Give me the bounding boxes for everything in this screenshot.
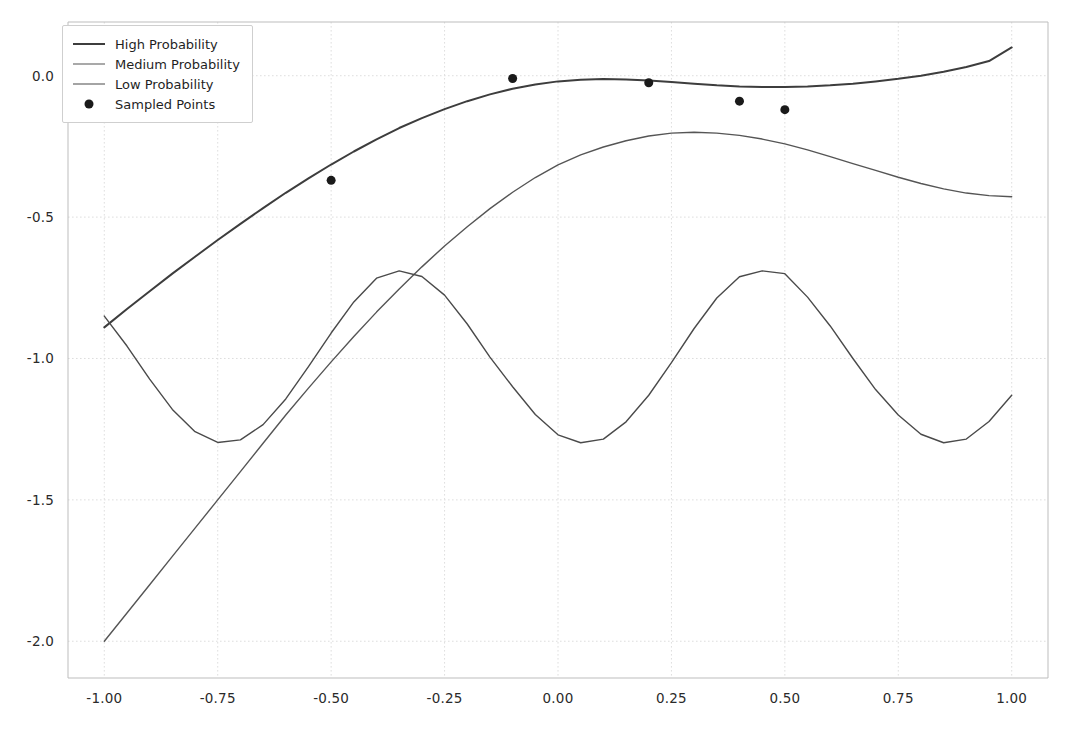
legend-item[interactable]: Low Probability xyxy=(73,74,240,94)
legend-item[interactable]: Medium Probability xyxy=(73,54,240,74)
scatter-point xyxy=(508,74,517,83)
legend-item[interactable]: High Probability xyxy=(73,34,240,54)
legend-item-label: Medium Probability xyxy=(115,57,240,72)
scatter-point xyxy=(735,97,744,106)
x-tick-label: 0.50 xyxy=(750,690,820,706)
legend-line-icon xyxy=(73,57,105,71)
y-tick-label: -1.5 xyxy=(2,492,54,508)
x-tick-label: -0.50 xyxy=(296,690,366,706)
legend-item-label: High Probability xyxy=(115,37,218,52)
x-tick-label: -1.00 xyxy=(69,690,139,706)
y-tick-label: -0.5 xyxy=(2,209,54,225)
legend-item[interactable]: Sampled Points xyxy=(73,94,240,114)
legend-item-label: Low Probability xyxy=(115,77,213,92)
chart-legend: High ProbabilityMedium ProbabilityLow Pr… xyxy=(62,25,253,123)
series-line xyxy=(104,271,1011,443)
legend-marker-icon xyxy=(73,97,105,111)
x-tick-label: 1.00 xyxy=(977,690,1047,706)
legend-line-icon xyxy=(73,77,105,91)
x-tick-label: 0.75 xyxy=(863,690,933,706)
y-tick-label: -2.0 xyxy=(2,633,54,649)
x-tick-label: 0.25 xyxy=(636,690,706,706)
scatter-point xyxy=(780,105,789,114)
chart-figure: 0.0-0.5-1.0-1.5-2.0 -1.00-0.75-0.50-0.25… xyxy=(0,0,1072,732)
scatter-point xyxy=(644,78,653,87)
data-series xyxy=(104,47,1011,641)
x-tick-label: -0.75 xyxy=(183,690,253,706)
legend-item-label: Sampled Points xyxy=(115,97,215,112)
scatter-point xyxy=(327,176,336,185)
y-tick-label: -1.0 xyxy=(2,350,54,366)
x-tick-label: -0.25 xyxy=(410,690,480,706)
legend-line-icon xyxy=(73,37,105,51)
x-tick-label: 0.00 xyxy=(523,690,593,706)
y-tick-label: 0.0 xyxy=(2,68,54,84)
